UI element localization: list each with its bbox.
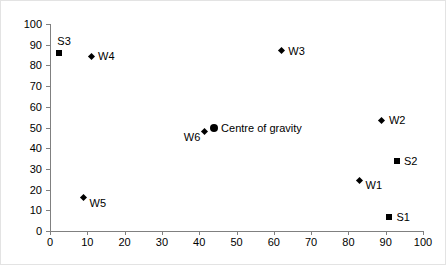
y-tick-label: 100	[1, 17, 42, 31]
y-tick-label: 50	[1, 121, 42, 135]
x-tick-label: 70	[291, 235, 331, 249]
y-tick-label: 40	[1, 141, 42, 155]
scatter-plot-figure: 0102030405060708090100 01020304050607080…	[0, 0, 446, 265]
x-tick-label: 20	[105, 235, 145, 249]
x-tick-label: 60	[254, 235, 294, 249]
y-tick-label: 60	[1, 100, 42, 114]
x-tick-label: 0	[30, 235, 70, 249]
data-point-label: W5	[90, 197, 107, 209]
data-point-label: W3	[288, 45, 305, 57]
x-tick-label: 30	[142, 235, 182, 249]
y-tick-label: 20	[1, 183, 42, 197]
y-tick-label: 10	[1, 203, 42, 217]
data-point-marker	[386, 214, 392, 220]
data-point-label: W6	[184, 131, 201, 143]
x-tick-label: 80	[328, 235, 368, 249]
data-point-marker	[56, 50, 62, 56]
data-point-label: S1	[396, 211, 409, 223]
data-point-marker	[394, 158, 400, 164]
x-tick-label: 50	[217, 235, 257, 249]
data-point-label: Centre of gravity	[221, 122, 302, 134]
y-tick-label: 90	[1, 38, 42, 52]
data-point-marker	[210, 124, 218, 132]
data-point-label: W2	[389, 114, 406, 126]
x-tick-label: 90	[366, 235, 406, 249]
data-point-label: S2	[404, 155, 417, 167]
y-tick-label: 30	[1, 162, 42, 176]
data-point-label: W4	[98, 50, 115, 62]
x-tick-label: 100	[403, 235, 443, 249]
x-tick-label: 10	[67, 235, 107, 249]
y-tick-label: 80	[1, 58, 42, 72]
y-tick-label: 70	[1, 79, 42, 93]
data-point-label: W1	[366, 179, 383, 191]
x-tick-label: 40	[179, 235, 219, 249]
data-point-label: S3	[57, 35, 70, 47]
